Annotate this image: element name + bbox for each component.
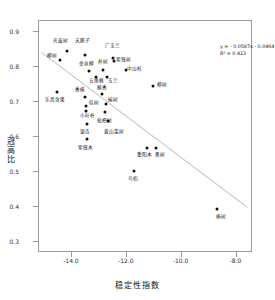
data-point-label: 广玉兰 (105, 43, 120, 48)
equation-text: y = - 0.0587x - 0.0464 (220, 44, 274, 51)
y-axis-tick-mark (33, 66, 38, 67)
data-point (86, 138, 89, 141)
y-axis-tick-label: 0.3 (9, 238, 19, 245)
plot-area: 光皮树柳树天鹅子广玉兰紫薇树朴树金丝柳中山杉五角枫玉兰柳树乐昌含笑香樟枫香桂树榆… (38, 20, 252, 252)
y-axis-tick-label: 0.7 (9, 97, 19, 104)
data-point-label: 枫香 (97, 85, 107, 90)
data-point (58, 58, 61, 61)
data-point-label: 银杏 (80, 129, 90, 134)
data-point (84, 105, 87, 108)
data-point (103, 110, 106, 113)
data-point (106, 120, 109, 123)
data-point (133, 169, 136, 172)
data-point (215, 208, 218, 211)
data-point-label: 天鹅子 (75, 38, 90, 43)
y-axis-tick-mark (33, 31, 38, 32)
data-point (146, 146, 149, 149)
data-point (55, 91, 58, 94)
data-point-label: 枇杷树 (97, 118, 112, 123)
data-point (85, 109, 88, 112)
data-point (151, 85, 154, 88)
data-point-label: 乐昌含笑 (45, 97, 65, 102)
data-point (86, 122, 89, 125)
x-axis-tick-label: -8.0 (230, 257, 242, 264)
data-point-label: 黄山栾树 (104, 129, 124, 134)
y-axis-tick-label: 0.4 (9, 203, 19, 210)
y-axis-tick-mark (33, 136, 38, 137)
data-point-label: 柳树 (157, 82, 167, 87)
x-axis-tick-label: -12.0 (118, 257, 134, 264)
regression-annotation: y = - 0.0587x - 0.0464 R² = 0.413 (220, 44, 274, 57)
data-point (155, 146, 158, 149)
data-point-label: 柳树 (47, 53, 57, 58)
data-point (101, 68, 104, 71)
data-point-label: 榆树 (108, 97, 118, 102)
y-axis-tick-mark (33, 241, 38, 242)
r-squared-text: R² = 0.413 (220, 51, 274, 58)
data-point-label: 金丝柳 (79, 61, 94, 66)
x-axis-tick-label: -14.0 (63, 257, 79, 264)
y-axis-tick-label: 0.5 (9, 168, 19, 175)
data-point-label: 紫薇树 (116, 57, 131, 62)
x-axis-tick-mark (181, 252, 182, 257)
y-axis-tick-label: 0.6 (9, 133, 19, 140)
data-point (87, 70, 90, 73)
data-point (84, 54, 87, 57)
y-axis-tick-label: 0.9 (9, 27, 19, 34)
x-axis-tick-mark (71, 252, 72, 257)
data-point-label: 小叶朴 (80, 113, 95, 118)
x-axis-tick-mark (236, 252, 237, 257)
data-point (104, 103, 107, 106)
data-point-label: 重阳木 (137, 152, 152, 157)
y-axis-tick-mark (33, 206, 38, 207)
data-point-label: 五角枫 (89, 78, 104, 83)
data-point-label: 光皮树 (53, 38, 68, 43)
y-axis-tick-label: 0.8 (9, 62, 19, 69)
y-axis-tick-mark (33, 101, 38, 102)
y-axis-tick-mark (33, 171, 38, 172)
data-point-label: 紫薇木 (78, 145, 93, 150)
data-point-label: 桂树 (89, 100, 99, 105)
scatter-chart: 冠高比 稳定性指数 光皮树柳树天鹅子广玉兰紫薇树朴树金丝柳中山杉五角枫玉兰柳树乐… (0, 0, 275, 300)
data-point-label: 玉兰 (108, 78, 118, 83)
data-point-label: 桑树 (155, 152, 165, 157)
data-point-label: 中山杉 (127, 66, 142, 71)
data-point-label: 朴树 (98, 59, 108, 64)
data-point-label: 杨树 (216, 214, 226, 219)
data-point (100, 93, 103, 96)
data-point-label: 乌桕 (128, 176, 138, 181)
x-axis-tick-mark (126, 252, 127, 257)
data-point (65, 49, 68, 52)
data-point (84, 95, 87, 98)
x-axis-title: 稳定性指数 (0, 279, 275, 290)
data-point-label: 香樟 (75, 87, 85, 92)
y-axis-title: 冠高比 (4, 137, 15, 164)
x-axis-tick-label: -10.0 (173, 257, 189, 264)
